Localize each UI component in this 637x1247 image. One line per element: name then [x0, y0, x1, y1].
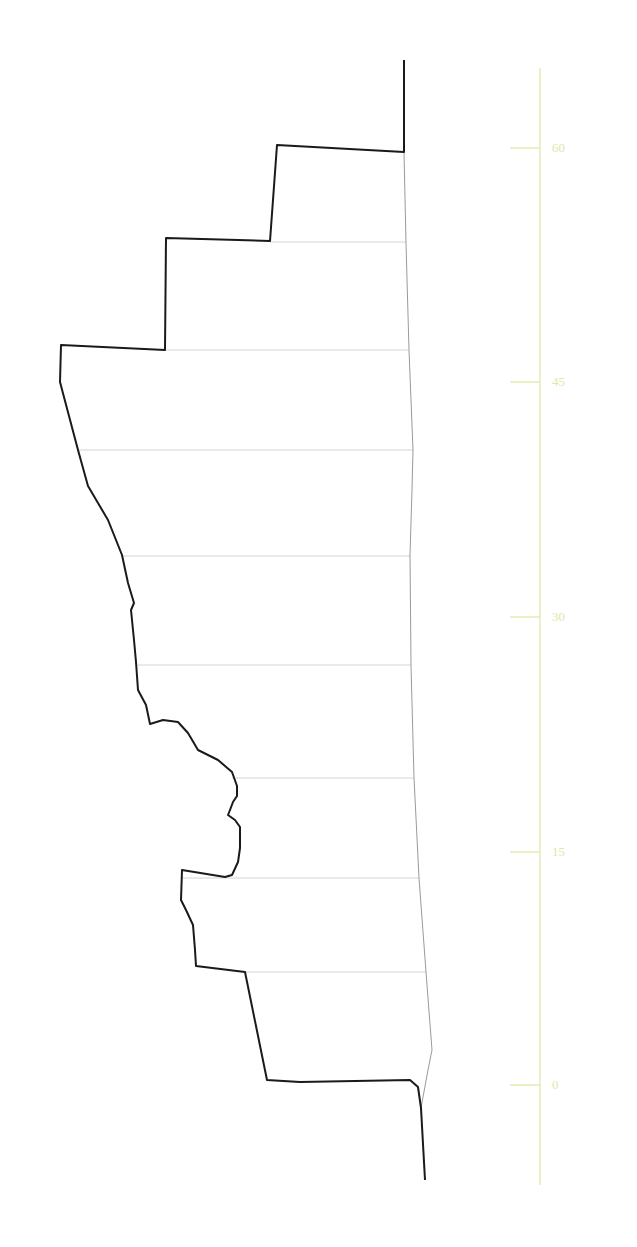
- axis-tick-label: 60: [552, 141, 565, 154]
- elevation-axis: [510, 68, 540, 1185]
- axis-tick-label: 30: [552, 610, 565, 623]
- section-lines: [78, 242, 426, 972]
- axis-ticks: [510, 148, 540, 1085]
- axis-tick-label: 15: [552, 845, 565, 858]
- elevation-profile-diagram: [0, 0, 637, 1247]
- ground-reference-line: [404, 152, 432, 1108]
- axis-tick-label: 45: [552, 375, 565, 388]
- axis-tick-label: 0: [552, 1078, 559, 1091]
- terrain-outline: [60, 60, 425, 1180]
